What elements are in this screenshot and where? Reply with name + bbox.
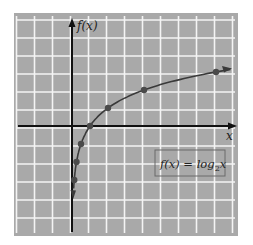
- data-point: [213, 69, 219, 75]
- log2-function-graph: f(x) x f(x) = log2x: [0, 0, 253, 245]
- x-axis-label: x: [226, 129, 233, 143]
- equation-lhs: f(x) = log: [159, 157, 215, 171]
- equation-arg: x: [220, 157, 227, 171]
- y-axis-label: f(x): [76, 19, 98, 33]
- data-point: [87, 123, 93, 129]
- graph-panel: [14, 13, 238, 236]
- data-point: [105, 105, 111, 111]
- data-point: [78, 141, 84, 147]
- data-point: [73, 159, 79, 165]
- data-point: [141, 87, 147, 93]
- data-point: [71, 177, 77, 183]
